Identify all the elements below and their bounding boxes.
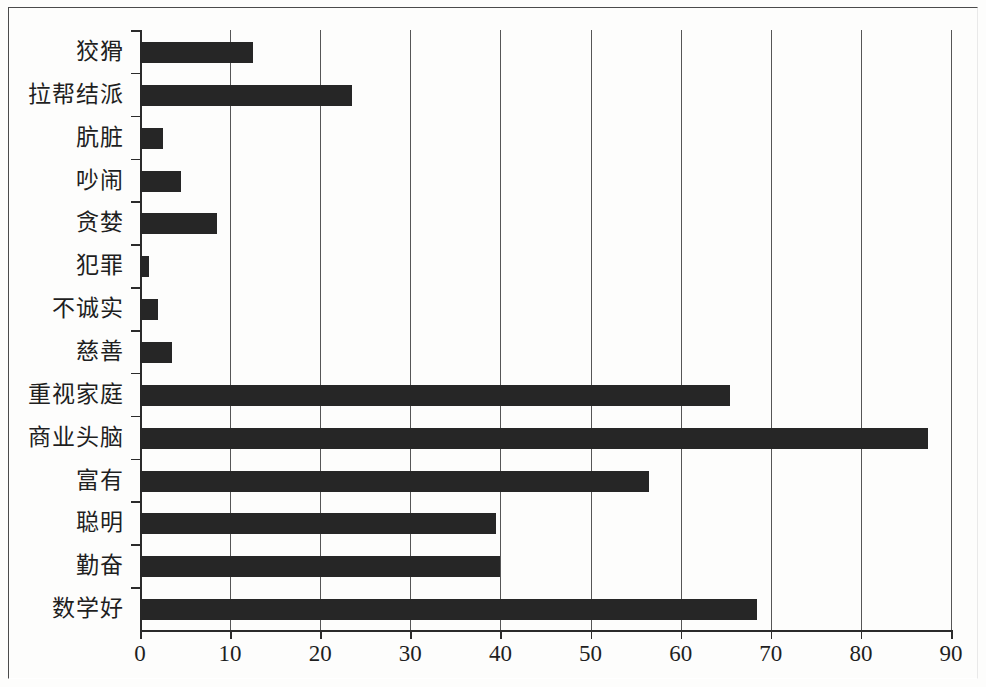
gridline-60 — [681, 30, 682, 630]
y-axis-category-label: 狡猾 — [76, 41, 124, 62]
bar — [140, 85, 352, 106]
y-tick-3 — [131, 159, 140, 161]
bar — [140, 513, 496, 534]
bar — [140, 213, 217, 234]
x-tick-label-40: 40 — [489, 641, 512, 667]
chart-figure: 狡猾拉帮结派肮脏吵闹贪婪犯罪不诚实慈善重视家庭商业头脑富有聪明勤奋数学好 010… — [0, 0, 986, 687]
x-tick-20 — [320, 630, 322, 639]
gridline-90 — [951, 30, 952, 630]
x-tick-label-70: 70 — [759, 641, 782, 667]
x-tick-label-0: 0 — [134, 641, 146, 667]
y-tick-2 — [131, 116, 140, 118]
y-axis-category-label: 慈善 — [76, 341, 124, 362]
y-axis-category-label: 拉帮结派 — [28, 84, 124, 105]
bar — [140, 256, 149, 277]
x-tick-label-20: 20 — [309, 641, 332, 667]
y-axis-category-label: 肮脏 — [76, 127, 124, 148]
x-tick-30 — [410, 630, 412, 639]
bar — [140, 171, 181, 192]
gridline-70 — [771, 30, 772, 630]
gridline-20 — [320, 30, 321, 630]
x-tick-80 — [861, 630, 863, 639]
y-tick-0 — [131, 30, 140, 32]
x-tick-90 — [951, 630, 953, 639]
y-axis-category-label: 重视家庭 — [28, 384, 124, 405]
y-tick-5 — [131, 244, 140, 246]
plot-area — [140, 30, 951, 630]
x-tick-label-80: 80 — [849, 641, 872, 667]
bar — [140, 42, 253, 63]
y-axis-category-label: 不诚实 — [52, 298, 124, 319]
bar — [140, 128, 163, 149]
bar — [140, 599, 757, 620]
x-tick-label-30: 30 — [399, 641, 422, 667]
x-tick-label-50: 50 — [579, 641, 602, 667]
bar — [140, 428, 928, 449]
y-axis-category-label: 吵闹 — [76, 170, 124, 191]
y-axis-category-label: 富有 — [76, 470, 124, 491]
y-axis-category-label: 商业头脑 — [28, 427, 124, 448]
y-tick-7 — [131, 330, 140, 332]
bar — [140, 385, 730, 406]
x-tick-label-90: 90 — [940, 641, 963, 667]
gridline-30 — [410, 30, 411, 630]
y-tick-8 — [131, 373, 140, 375]
y-axis-category-label: 数学好 — [52, 598, 124, 619]
y-axis-category-label: 聪明 — [76, 512, 124, 533]
y-tick-1 — [131, 73, 140, 75]
x-tick-0 — [140, 630, 142, 639]
bar — [140, 556, 500, 577]
x-axis-line — [140, 630, 952, 632]
y-tick-4 — [131, 201, 140, 203]
y-axis-labels: 狡猾拉帮结派肮脏吵闹贪婪犯罪不诚实慈善重视家庭商业头脑富有聪明勤奋数学好 — [0, 30, 128, 630]
y-tick-10 — [131, 459, 140, 461]
gridline-50 — [591, 30, 592, 630]
x-tick-label-10: 10 — [219, 641, 242, 667]
y-tick-9 — [131, 416, 140, 418]
gridline-10 — [230, 30, 231, 630]
bar — [140, 342, 172, 363]
y-tick-13 — [131, 587, 140, 589]
y-tick-6 — [131, 287, 140, 289]
y-tick-11 — [131, 501, 140, 503]
x-tick-50 — [591, 630, 593, 639]
x-tick-10 — [230, 630, 232, 639]
y-axis-category-label: 勤奋 — [76, 555, 124, 576]
x-axis-tick-labels: 0102030405060708090 — [0, 641, 986, 681]
bar — [140, 299, 158, 320]
bar — [140, 471, 649, 492]
x-tick-label-60: 60 — [669, 641, 692, 667]
y-axis-category-label: 贪婪 — [76, 212, 124, 233]
x-tick-70 — [771, 630, 773, 639]
gridline-40 — [500, 30, 501, 630]
gridline-80 — [861, 30, 862, 630]
x-tick-40 — [500, 630, 502, 639]
x-tick-60 — [681, 630, 683, 639]
gridline-0 — [140, 30, 142, 630]
y-tick-12 — [131, 544, 140, 546]
y-axis-category-label: 犯罪 — [76, 255, 124, 276]
